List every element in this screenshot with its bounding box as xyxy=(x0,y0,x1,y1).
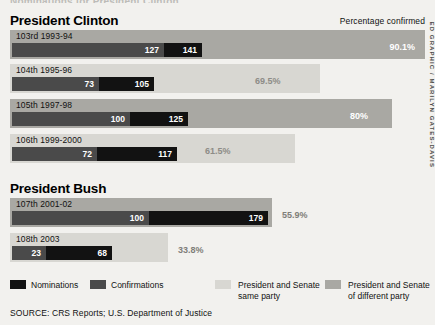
row-bars: 100 125 xyxy=(12,112,188,126)
row-label: 105th 1997-98 xyxy=(16,100,72,110)
row-percent-confirmed: 90.1% xyxy=(389,42,415,52)
bar-value-confirmations: 72 xyxy=(83,149,92,159)
row-percent-confirmed: 55.9% xyxy=(282,210,308,220)
cropped-headline: Nominations for President Clinton xyxy=(10,0,179,3)
table-row[interactable]: 106th 1999-2000 72 117 61.5% xyxy=(10,134,425,163)
row-label: 104th 1995-96 xyxy=(16,65,72,75)
bar-segment-confirmations: 73 xyxy=(12,77,99,91)
legend-swatch-nominations-icon xyxy=(10,280,26,289)
bar-value-confirmations: 100 xyxy=(111,114,125,124)
bar-value-nominations: 141 xyxy=(183,45,197,55)
row-label: 108th 2003 xyxy=(16,234,60,244)
bar-value-nominations: 68 xyxy=(98,248,107,258)
row-label: 106th 1999-2000 xyxy=(16,135,82,145)
bar-segment-confirmations: 100 xyxy=(12,112,130,126)
bar-value-confirmations: 127 xyxy=(145,45,159,55)
bar-segment-nominations: 179 xyxy=(149,211,268,225)
row-percent-confirmed: 80% xyxy=(350,111,368,121)
legend-swatch-confirmations-icon xyxy=(90,280,106,289)
bar-segment-nominations: 68 xyxy=(46,246,112,260)
section-title-bush: President Bush xyxy=(10,181,106,196)
bar-segment-confirmations: 23 xyxy=(12,246,46,260)
row-bars: 73 105 xyxy=(12,77,154,91)
section-title-clinton: President Clinton xyxy=(10,13,118,28)
row-bars: 72 117 xyxy=(12,147,177,161)
row-bars: 23 68 xyxy=(12,246,112,260)
bar-segment-confirmations: 127 xyxy=(12,43,164,57)
infographic-sheet: Nominations for President Clinton Presid… xyxy=(0,0,435,325)
percentage-confirmed-header: Percentage confirmed xyxy=(340,16,425,26)
legend-label-confirmations: Confirmations xyxy=(111,280,163,290)
table-row[interactable]: 104th 1995-96 73 105 69.5% xyxy=(10,64,425,93)
legend-label-different-party-line2: of different party xyxy=(348,291,409,301)
legend-label-nominations: Nominations xyxy=(31,280,78,290)
bar-value-nominations: 125 xyxy=(169,114,183,124)
legend-label-different-party-line1: President and Senate xyxy=(348,280,430,290)
row-percent-confirmed: 69.5% xyxy=(255,76,281,86)
source-note: SOURCE: CRS Reports; U.S. Department of … xyxy=(10,308,212,318)
row-bars: 127 141 xyxy=(12,43,202,57)
row-percent-confirmed: 61.5% xyxy=(205,146,231,156)
legend-swatch-same-party-icon xyxy=(215,280,231,289)
legend-label-same-party-line2: same party xyxy=(238,291,280,301)
bar-segment-nominations: 105 xyxy=(99,77,154,91)
bar-segment-confirmations: 72 xyxy=(12,147,97,161)
bar-value-nominations: 105 xyxy=(135,79,149,89)
row-percent-confirmed: 33.8% xyxy=(178,245,204,255)
bar-value-confirmations: 100 xyxy=(130,213,144,223)
row-label: 107th 2001-02 xyxy=(16,199,72,209)
table-row[interactable]: 103rd 1993-94 127 141 90.1% xyxy=(10,30,425,59)
legend-label-same-party-line1: President and Senate xyxy=(238,280,320,290)
bar-segment-nominations: 141 xyxy=(164,43,202,57)
bar-segment-nominations: 117 xyxy=(97,147,177,161)
table-row[interactable]: 107th 2001-02 100 179 55.9% xyxy=(10,198,425,227)
bar-value-nominations: 117 xyxy=(158,149,172,159)
bar-value-confirmations: 23 xyxy=(32,248,41,258)
bar-value-nominations: 179 xyxy=(249,213,263,223)
bar-value-confirmations: 73 xyxy=(85,79,94,89)
legend-swatch-different-party-icon xyxy=(325,280,341,289)
row-label: 103rd 1993-94 xyxy=(16,31,73,41)
graphic-credit: ED GRAPHIC / MARILYN GATES-DAVIS xyxy=(429,22,435,168)
table-row[interactable]: 108th 2003 23 68 33.8% xyxy=(10,233,425,262)
bar-segment-nominations: 125 xyxy=(130,112,188,126)
row-bars: 100 179 xyxy=(12,211,268,225)
chart-legend: Nominations Confirmations President and … xyxy=(10,279,425,305)
table-row[interactable]: 105th 1997-98 100 125 80% xyxy=(10,99,425,128)
bar-segment-confirmations: 100 xyxy=(12,211,149,225)
